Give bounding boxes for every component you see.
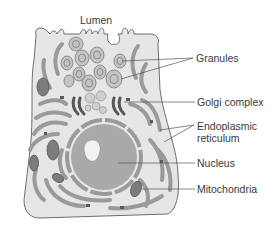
- label-er-line1: Endoplasmic: [197, 121, 257, 132]
- label-mitochondria: Mitochondria: [197, 184, 257, 195]
- label-lumen: Lumen: [80, 15, 112, 26]
- label-granules: Granules: [196, 53, 239, 64]
- nucleolus: [84, 140, 100, 161]
- label-er-line2: reticulum: [197, 133, 240, 144]
- label-golgi-complex: Golgi complex: [197, 97, 264, 108]
- nucleus: [71, 124, 137, 190]
- cell-diagram: [0, 0, 270, 233]
- label-nucleus: Nucleus: [197, 158, 235, 169]
